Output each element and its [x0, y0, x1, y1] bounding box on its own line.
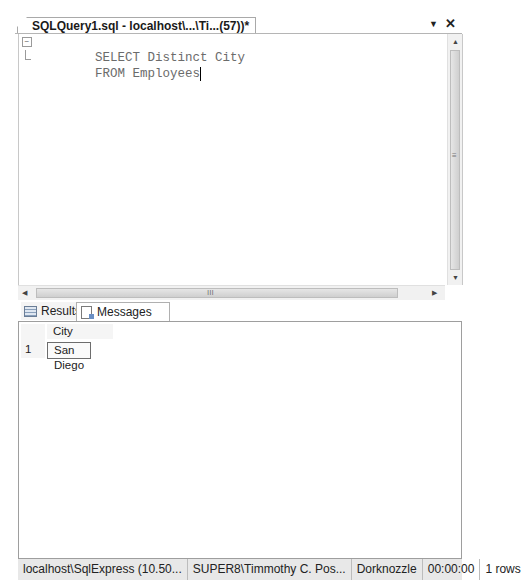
tab-label: Messages: [97, 305, 152, 319]
grid-icon: [24, 306, 37, 317]
corner-cell[interactable]: [21, 324, 45, 341]
status-elapsed: 00:00:00: [423, 559, 481, 580]
code-line: −SELECT Distinct City: [19, 34, 245, 50]
tab-label: Results: [41, 304, 81, 318]
status-rows: 1 rows: [480, 559, 525, 580]
column-header[interactable]: City: [47, 324, 113, 339]
document-tab-bar: SQLQuery1.sql - localhost\...\Ti...(57))…: [15, 14, 462, 32]
scroll-down-icon[interactable]: ▼: [452, 274, 459, 281]
scroll-left-icon[interactable]: ◀: [22, 289, 27, 297]
query-window: SQLQuery1.sql - localhost\...\Ti...(57))…: [15, 14, 462, 570]
code-text: FROM Employees: [95, 67, 200, 81]
close-icon[interactable]: ✕: [445, 16, 456, 31]
scroll-up-icon[interactable]: ▲: [452, 38, 459, 45]
scroll-right-icon[interactable]: ▶: [432, 289, 437, 297]
tab-dropdown-icon[interactable]: ▼: [429, 19, 438, 29]
code-area[interactable]: −SELECT Distinct City FROM Employees: [19, 34, 245, 66]
row-number[interactable]: 1: [21, 341, 45, 358]
status-server: localhost\SqlExpress (10.50...: [18, 559, 188, 580]
sql-editor[interactable]: −SELECT Distinct City FROM Employees ▲ ≡…: [18, 34, 463, 285]
results-grid[interactable]: City 1 San Diego: [18, 321, 462, 559]
grip-icon: ≡: [452, 151, 457, 160]
document-tab[interactable]: SQLQuery1.sql - localhost\...\Ti...(57))…: [17, 17, 256, 34]
text-caret: [200, 67, 201, 81]
horizontal-scrollbar[interactable]: ◀ III ▶: [18, 285, 445, 300]
tab-messages[interactable]: Messages: [76, 302, 170, 321]
horizontal-scroll-thumb[interactable]: III: [36, 288, 398, 298]
messages-icon: [81, 306, 92, 319]
fold-end-icon: [25, 50, 31, 60]
status-user: SUPER8\Timmothy C. Pos...: [188, 559, 352, 580]
grip-icon: III: [207, 288, 214, 297]
status-database: Dorknozzle: [352, 559, 423, 580]
vertical-scrollbar[interactable]: ▲ ≡ ▼: [447, 34, 462, 285]
table-cell[interactable]: San Diego: [47, 342, 91, 359]
code-line: FROM Employees: [19, 50, 245, 66]
status-bar: localhost\SqlExpress (10.50... SUPER8\Ti…: [18, 559, 462, 580]
collapse-icon[interactable]: −: [22, 37, 32, 47]
vertical-scroll-thumb[interactable]: ≡: [450, 50, 460, 270]
